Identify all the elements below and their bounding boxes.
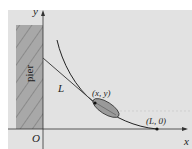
- rope-label: L: [57, 82, 64, 94]
- y-axis-label: y: [32, 5, 38, 17]
- end-point-label: (L, 0): [146, 116, 166, 126]
- origin-label: O: [32, 132, 40, 144]
- point-end: [155, 127, 158, 130]
- x-axis-label: x: [183, 135, 189, 147]
- tractrix-diagram: pier y x O L (x, y) (L, 0): [0, 0, 192, 149]
- boat-point-label: (x, y): [92, 88, 110, 98]
- pier-label: pier: [23, 65, 35, 82]
- point-boat: [93, 101, 96, 104]
